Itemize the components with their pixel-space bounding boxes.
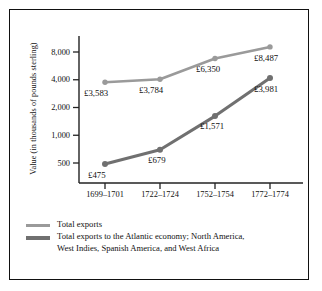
point-label-lower-1699: £475	[88, 170, 106, 180]
x-tick-label-1752-1754: 1752–1754	[185, 190, 245, 199]
y-tick-label-2000: 2,000	[38, 103, 70, 112]
point-label-lower-1722: £679	[148, 155, 166, 165]
point-label-lower-1752: £1,571	[200, 121, 224, 131]
series-markers-total-exports	[102, 44, 272, 85]
y-tick-label-8000: 8,000	[38, 48, 70, 57]
point-label-upper-1722: £3,784	[139, 85, 163, 95]
series-markers-atlantic-economy	[102, 75, 273, 167]
point-label-upper-1752: £6,350	[196, 64, 220, 74]
series-line-total-exports	[105, 47, 270, 82]
y-tick-label-1000: 1,000	[38, 131, 70, 140]
y-tick-label-4000: 4,000	[38, 75, 70, 84]
y-tick-label-500: 500	[38, 159, 70, 168]
point-label-upper-1772: £8,487	[254, 53, 278, 63]
chart-legend: Total exports Total exports to the Atlan…	[26, 219, 296, 255]
x-tick-label-1699-1701: 1699–1701	[75, 190, 135, 199]
x-tick-label-1722-1724: 1722–1724	[130, 190, 190, 199]
y-axis-title: Value (in thousands of pounds sterling)	[29, 34, 38, 184]
legend-swatch-atlantic-economy	[26, 236, 50, 240]
legend-label-atlantic-line2: West Indies, Spanish America, and West A…	[57, 243, 219, 253]
plot-area: Value (in thousands of pounds sterling) …	[0, 0, 322, 291]
figure-container: Value (in thousands of pounds sterling) …	[0, 0, 322, 291]
legend-label-total-exports: Total exports	[57, 219, 102, 230]
legend-label-atlantic-economy: Total exports to the Atlantic economy; N…	[57, 231, 244, 254]
x-axis-ticks	[105, 183, 270, 189]
legend-swatch-total-exports	[26, 224, 50, 227]
x-tick-label-1772-1774: 1772–1774	[240, 190, 300, 199]
legend-item-total-exports: Total exports	[26, 219, 296, 230]
series-line-atlantic-economy	[105, 78, 270, 164]
legend-label-atlantic-line1: Total exports to the Atlantic economy; N…	[57, 231, 244, 241]
point-label-upper-1699: £3,583	[84, 88, 108, 98]
legend-item-atlantic-economy: Total exports to the Atlantic economy; N…	[26, 231, 296, 254]
point-label-lower-1772: £3,981	[254, 84, 278, 94]
y-axis-ticks	[73, 52, 79, 163]
